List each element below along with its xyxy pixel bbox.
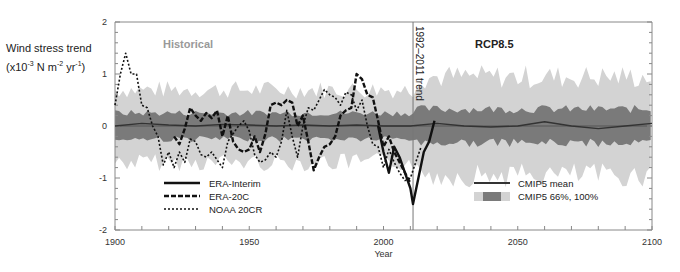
historical-label: Historical — [163, 38, 213, 50]
y-axis-label: Wind stress trend (x10-3 N m-2 yr-1) — [6, 40, 92, 75]
x-tick-label: 2000 — [373, 237, 393, 247]
x-tick-label: 2100 — [642, 237, 662, 247]
y-tick-label: -1 — [99, 173, 107, 183]
legend-label: ERA-Interim — [209, 178, 261, 189]
x-tick-label: 1950 — [239, 237, 259, 247]
legend-label: NOAA 20CR — [209, 204, 262, 215]
y-tick-label: 0 — [102, 121, 107, 131]
x-tick-label: 1900 — [105, 237, 125, 247]
legend-swatch-band66 — [483, 192, 501, 201]
y-axis-label-line2: (x10-3 N m-2 yr-1) — [6, 56, 92, 75]
trend-vline-label: 1992–2011 trend — [414, 26, 425, 101]
legend-label: CMIP5 mean — [518, 178, 573, 189]
rcp85-label: RCP8.5 — [475, 38, 514, 50]
wind-stress-chart: -2-101219001950200020502100Year1992–2011… — [0, 0, 680, 272]
legend-label: CMIP5 66%, 100% — [518, 191, 599, 202]
y-tick-label: 2 — [102, 17, 107, 27]
legend-label: ERA-20C — [209, 191, 249, 202]
y-axis-label-line1: Wind stress trend — [6, 40, 92, 56]
y-tick-label: -2 — [99, 225, 107, 235]
y-tick-label: 1 — [102, 69, 107, 79]
x-tick-label: 2050 — [508, 237, 528, 247]
x-axis-label: Year — [374, 249, 392, 259]
